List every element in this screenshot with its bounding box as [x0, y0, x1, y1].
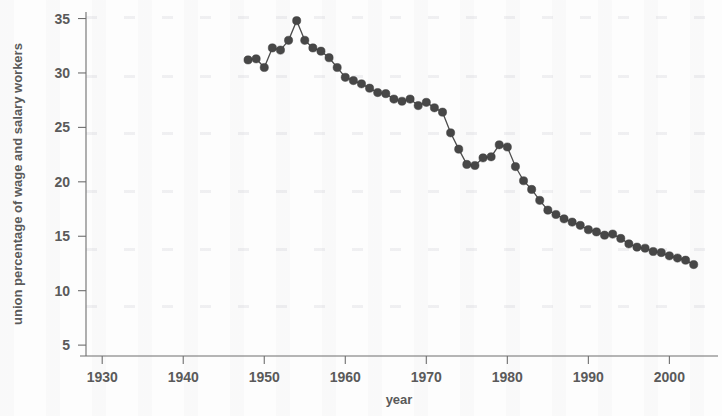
data-point [398, 97, 406, 105]
y-tick-label: 10 [54, 283, 70, 299]
y-axis: 5101520253035 [54, 11, 86, 356]
data-point [690, 260, 698, 268]
data-point [649, 247, 657, 255]
data-point [260, 63, 268, 71]
data-point [317, 47, 325, 55]
union-density-line [248, 21, 694, 265]
data-point [471, 161, 479, 169]
data-point [617, 234, 625, 242]
data-point [511, 162, 519, 170]
data-point [374, 88, 382, 96]
union-density-markers [244, 17, 698, 269]
y-tick-label: 25 [54, 119, 70, 135]
y-tick-label: 15 [54, 228, 70, 244]
data-point [325, 54, 333, 62]
data-point [382, 90, 390, 98]
data-point [438, 108, 446, 116]
y-tick-label: 35 [54, 11, 70, 27]
y-tick-label: 30 [54, 65, 70, 81]
data-point [252, 55, 260, 63]
x-tick-label: 1990 [573, 369, 604, 385]
data-point [309, 44, 317, 52]
data-point [544, 206, 552, 214]
y-tick-label: 5 [62, 337, 70, 353]
x-tick-label: 1970 [411, 369, 442, 385]
data-point [552, 210, 560, 218]
data-point [536, 196, 544, 204]
x-axis: 19301940195019601970198019902000 [80, 356, 718, 385]
data-point [625, 240, 633, 248]
x-axis-title: year [386, 392, 413, 407]
data-point [301, 36, 309, 44]
y-axis-title: union percentage of wage and salary work… [10, 43, 25, 325]
chart-container: 5101520253035 19301940195019601970198019… [0, 0, 722, 416]
data-point [357, 80, 365, 88]
data-point [657, 248, 665, 256]
data-point [641, 244, 649, 252]
data-point [463, 160, 471, 168]
data-point [455, 145, 463, 153]
data-point [244, 56, 252, 64]
x-tick-label: 1930 [87, 369, 118, 385]
data-point [495, 141, 503, 149]
data-point [681, 256, 689, 264]
data-point [422, 98, 430, 106]
data-point [341, 73, 349, 81]
data-point [576, 221, 584, 229]
data-point [414, 102, 422, 110]
x-tick-label: 1960 [330, 369, 361, 385]
data-point [276, 46, 284, 54]
data-point [430, 104, 438, 112]
data-point [592, 228, 600, 236]
x-tick-label: 1940 [168, 369, 199, 385]
x-tick-label: 2000 [654, 369, 685, 385]
data-point [600, 231, 608, 239]
x-tick-label: 1950 [249, 369, 280, 385]
data-point [609, 230, 617, 238]
y-tick-label: 20 [54, 174, 70, 190]
data-point [633, 243, 641, 251]
data-point [390, 95, 398, 103]
data-point [519, 177, 527, 185]
data-point [268, 44, 276, 52]
data-point [568, 218, 576, 226]
x-tick-label: 1980 [492, 369, 523, 385]
data-point [673, 254, 681, 262]
data-point [349, 76, 357, 84]
data-point [365, 84, 373, 92]
data-point [333, 63, 341, 71]
data-point [584, 226, 592, 234]
data-point [284, 36, 292, 44]
data-point [503, 143, 511, 151]
data-point [406, 95, 414, 103]
data-point [560, 215, 568, 223]
data-point [293, 17, 301, 25]
data-point [479, 154, 487, 162]
data-point [528, 185, 536, 193]
line-chart-plot: 5101520253035 19301940195019601970198019… [0, 0, 722, 416]
data-point [487, 153, 495, 161]
data-point [447, 129, 455, 137]
data-point [665, 252, 673, 260]
